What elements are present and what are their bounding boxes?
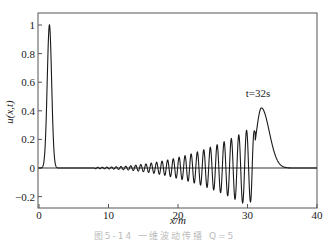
x-tick-label: 30	[242, 209, 254, 221]
x-tick-label: 10	[103, 209, 115, 221]
initial-pulse-curve	[39, 25, 95, 168]
y-tick-label: 1	[30, 19, 36, 31]
y-tick-label: −0.2	[15, 191, 35, 203]
x-tick-label: 40	[312, 209, 324, 221]
wave-train-curve	[95, 108, 317, 203]
x-axis-label: x/m	[169, 214, 186, 226]
y-axis-label: u(x,t)	[3, 100, 16, 124]
y-tick-label: 0.2	[21, 133, 35, 145]
time-annotation: t=32s	[246, 87, 271, 99]
y-tick-label: 0.6	[21, 76, 35, 88]
figure-caption: 图5-14 一维波动传播 Q=5	[0, 229, 329, 242]
y-tick-label: 0.8	[21, 48, 35, 60]
y-tick-label: 0	[30, 162, 36, 174]
plot-frame	[38, 13, 317, 208]
x-tick-label: 0	[36, 209, 42, 221]
y-tick-label: 0.4	[21, 105, 35, 117]
